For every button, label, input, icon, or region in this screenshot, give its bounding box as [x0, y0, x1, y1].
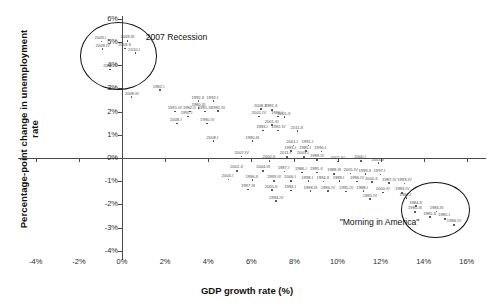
data-point [271, 189, 273, 191]
data-point-label: 2006-I [284, 175, 296, 179]
data-point-label: 2000-II [365, 177, 378, 181]
data-point [174, 111, 176, 113]
data-point [213, 140, 215, 142]
data-point-label: 2004-I [222, 174, 234, 178]
data-point-label: 2001-IV [252, 111, 266, 115]
y-tick-mark [118, 204, 122, 205]
data-point-label: 1988-III [327, 168, 341, 172]
x-tick-label: 4% [191, 258, 225, 266]
data-point [290, 190, 292, 192]
data-point [187, 116, 189, 118]
data-point-label: 1991-III [168, 106, 182, 110]
data-point [252, 179, 254, 181]
data-point-label: 1992-II [192, 96, 205, 100]
data-point [275, 200, 277, 202]
x-tick-label: -2% [62, 258, 96, 266]
data-point-label: 2001-I [286, 140, 298, 144]
y-tick-mark [118, 135, 122, 136]
data-point-label: 2008-I [170, 118, 182, 122]
data-point-label: 2000-IV [376, 187, 390, 191]
data-point [262, 130, 264, 132]
chart-annotation: "Morning in America" [340, 217, 420, 227]
data-point [269, 160, 271, 162]
data-point [206, 123, 208, 125]
data-point [350, 173, 352, 175]
data-point [204, 111, 206, 113]
data-point-label: 1986-I [295, 167, 307, 171]
data-point-label: 1995-IV [339, 186, 353, 190]
data-point-label: 2005-IV [343, 168, 357, 172]
data-point [339, 180, 341, 182]
data-point [228, 179, 230, 181]
data-point-label: 1987-IV [382, 178, 396, 182]
data-point [217, 110, 219, 112]
data-point-label: 1983-I [256, 125, 268, 129]
data-point-label: 1990-I [314, 146, 326, 150]
data-point-label: 1992-IV [271, 125, 285, 129]
data-point [365, 173, 367, 175]
x-tick-label: 2% [148, 258, 182, 266]
data-point-label: 1997-III [241, 184, 255, 188]
data-point-label: 2011-I [280, 151, 291, 155]
data-point-label: 1990-IV [200, 118, 214, 122]
y-tick-label: -2% [92, 200, 118, 208]
data-point [303, 156, 305, 158]
data-point [176, 123, 178, 125]
data-point [388, 182, 390, 184]
x-tick-label: 8% [277, 258, 311, 266]
data-point [310, 190, 312, 192]
data-point-label: 2000-I [354, 155, 366, 159]
data-point-label: 1988-I [356, 186, 368, 190]
data-point [308, 180, 310, 182]
data-point-label: 1991-I [181, 111, 193, 115]
data-point [131, 96, 133, 98]
x-tick-mark [122, 158, 123, 162]
data-point [378, 162, 380, 164]
x-tick-label: 6% [234, 258, 268, 266]
data-point-label: 1995-II [310, 167, 323, 171]
data-point-label: 2004-III [256, 165, 270, 169]
y-tick-label: -1% [92, 177, 118, 185]
data-point-label: 1999-II [359, 169, 372, 173]
x-tick-label: -4% [19, 258, 53, 266]
data-point-label: 2011-II [291, 126, 303, 130]
data-point [371, 181, 373, 183]
data-point-label: 1992-III [211, 106, 225, 110]
data-point [277, 116, 279, 118]
data-point [382, 192, 384, 194]
data-point-label: 1999-IV [397, 178, 411, 182]
y-axis-title: Percentage-point change in unemployment … [18, 24, 40, 234]
chart-canvas: 6%5%4%3%2%1%0%-1%-2%-3%-4% -4%-2%0%2%4%6… [0, 0, 494, 307]
data-point [262, 170, 264, 172]
data-point [290, 180, 292, 182]
y-tick-label: 0% [92, 154, 118, 162]
data-point [286, 156, 288, 158]
data-point [159, 89, 161, 91]
data-point-label: 1993-I [284, 146, 296, 150]
data-point-label: 2002-II [263, 155, 276, 159]
data-point-label: 1982-I [153, 85, 165, 89]
data-point-label: 1985-IV [363, 194, 377, 198]
data-point [297, 130, 299, 132]
data-point-label: 1993-IV [267, 175, 281, 179]
data-point [247, 189, 249, 191]
data-point-label: 1994-II [316, 176, 329, 180]
data-point [284, 171, 286, 173]
data-point [369, 198, 371, 200]
data-point [380, 174, 382, 176]
data-point-label: 1997-I [374, 169, 386, 173]
data-point-label: 2005-II [265, 185, 278, 189]
data-point [360, 160, 362, 162]
data-point-label: 1991-I [301, 140, 313, 144]
data-point-label: 1986-IV [321, 186, 335, 190]
data-point-label: 1989-IV [310, 154, 324, 158]
data-point [356, 181, 358, 183]
x-tick-mark [79, 158, 80, 162]
data-point-label: 2003-I [297, 151, 309, 155]
data-point-label: 1985-I [299, 146, 311, 150]
y-tick-label: 1% [92, 131, 118, 139]
data-point-label: 1992-I [207, 96, 219, 100]
data-point-label: 2001-II [278, 112, 291, 116]
data-point [258, 116, 260, 118]
y-tick-mark [118, 112, 122, 113]
